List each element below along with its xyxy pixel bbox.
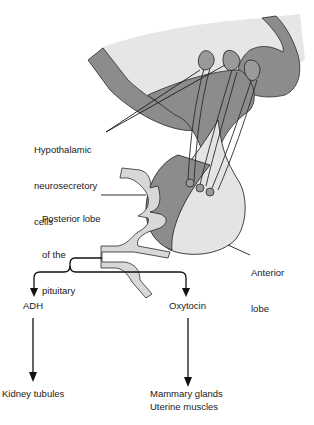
label-anterior-lobe: Anterior lobe	[251, 243, 284, 327]
label-posterior-lobe: Posterior lobe of the pituitary	[42, 189, 101, 309]
label-kidney-tubules: Kidney tubules	[2, 388, 64, 400]
label-line: pituitary	[42, 285, 101, 297]
label-line: Anterior	[251, 267, 284, 279]
label-oxytocin: Oxytocin	[169, 300, 206, 312]
label-line: Hypothalamic	[34, 144, 97, 156]
label-line: Posterior lobe	[42, 213, 101, 225]
label-uterine-muscles: Uterine muscles	[150, 401, 218, 413]
label-line: of the	[42, 249, 101, 261]
label-adh: ADH	[23, 300, 43, 312]
label-mammary-glands: Mammary glands	[150, 388, 223, 400]
label-line: lobe	[251, 303, 284, 315]
